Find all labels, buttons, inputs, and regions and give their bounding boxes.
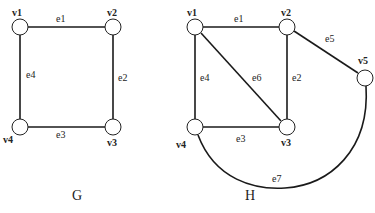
vertex-label-h-v5: v5 (358, 55, 368, 66)
graph-caption-h: H (245, 188, 255, 203)
vertex-g-v1 (12, 19, 28, 35)
vertex-g-v3 (105, 119, 121, 135)
edge-label-h-e5: e5 (325, 33, 334, 44)
vertex-g-v4 (12, 119, 28, 135)
edge-label-g-e1: e1 (56, 13, 65, 24)
vertex-label-h-v4: v4 (176, 139, 186, 150)
edge-label-h-e6: e6 (252, 72, 261, 83)
vertex-h-v4 (187, 119, 203, 135)
vertex-label-g-v1: v1 (12, 7, 22, 18)
edge-label-h-e7: e7 (272, 173, 281, 184)
edge-label-g-e4: e4 (26, 69, 35, 80)
vertex-g-v2 (105, 19, 121, 35)
graph-g: v1 v2 v3 v4 e1 e2 e3 e4 G (3, 7, 127, 203)
graph-diagram: v1 v2 v3 v4 e1 e2 e3 e4 G v1 v2 v3 v4 v5… (0, 0, 375, 213)
edge-label-h-e1: e1 (234, 13, 243, 24)
edge-label-g-e2: e2 (118, 72, 127, 83)
edge-label-h-e3: e3 (236, 133, 245, 144)
vertex-h-v2 (279, 19, 295, 35)
edge-label-h-e4: e4 (200, 72, 209, 83)
vertex-label-h-v1: v1 (187, 7, 197, 18)
vertex-h-v3 (279, 119, 295, 135)
graph-caption-g: G (72, 188, 82, 203)
edge-label-h-e2: e2 (292, 72, 301, 83)
vertex-h-v5 (357, 70, 373, 86)
vertex-label-h-v3: v3 (281, 137, 291, 148)
edge-h-e6 (201, 33, 281, 121)
vertex-label-g-v2: v2 (107, 7, 117, 18)
vertex-h-v1 (187, 19, 203, 35)
vertex-label-g-v3: v3 (107, 137, 117, 148)
edge-label-g-e3: e3 (56, 129, 65, 140)
vertex-label-g-v4: v4 (3, 134, 13, 145)
graph-h: v1 v2 v3 v4 v5 e1 e2 e3 e4 e5 e6 e7 H (176, 7, 373, 203)
vertex-label-h-v2: v2 (281, 7, 291, 18)
